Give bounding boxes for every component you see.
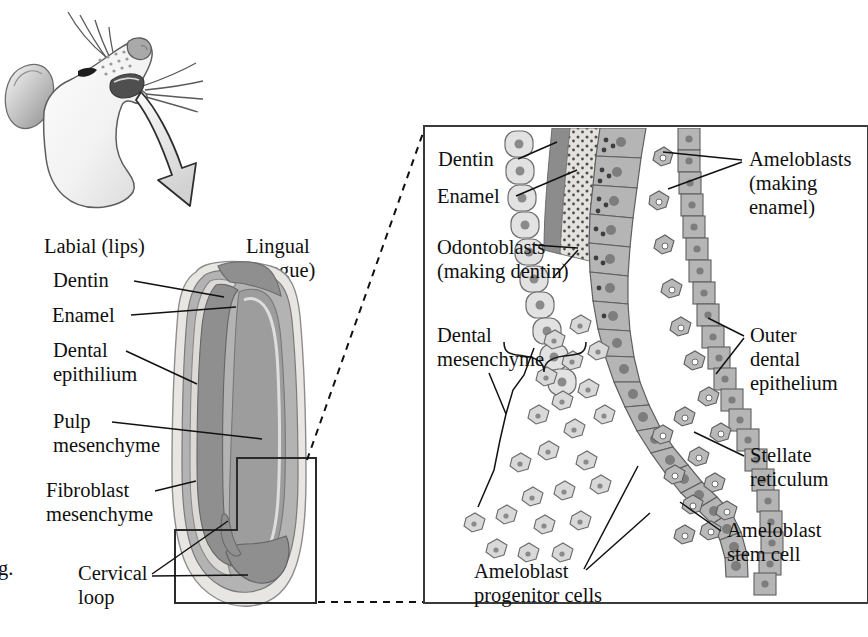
mouse-nose [127,38,151,60]
detail-label-ameloblasts-line1: Ameloblasts [749,148,852,170]
detail-label-ameloblast-stem-line1: Ameloblast [727,519,822,541]
left-label-cervical-line1: Cervical [78,562,148,584]
left-label-pulp-line2: mesenchyme [53,434,160,457]
left-label-pulp-line1: Pulp [53,410,91,433]
leader-left-cervical-b [152,575,248,576]
label-labial: Labial (lips) [44,235,145,258]
detail-label-stellate-line1: Stellate [750,444,811,466]
detail-label-odontoblasts-line1: Odontoblasts [437,236,545,258]
left-label-enamel: Enamel [52,304,115,326]
detail-label-odontoblasts-line2: (making dentin) [437,260,569,283]
detail-label-ameloblasts-line2: (making [749,172,817,195]
detail-label-outer-dental-line1: Outer [750,324,797,346]
incisor-cross-section-drawing [172,261,306,606]
detail-label-stellate-line2: reticulum [750,468,829,490]
layer-pulp-mesenchyme [229,289,285,574]
left-label-dental-epithilium-line1: Dental [53,339,108,361]
detail-label-progenitor-line2: progenitor cells [474,584,602,607]
detail-label-outer-dental-line2: dental [750,348,800,370]
detail-label-ameloblast-stem-line2: stem cell [727,543,801,565]
detail-label-ameloblasts-line3: enamel) [749,196,815,219]
detail-label-outer-dental-line3: epithelium [750,372,838,395]
left-label-dental-epithilium-line2: epithilium [53,363,137,386]
detail-label-progenitor-line1: Ameloblast [474,560,569,582]
caption-fragment: g. [0,557,13,580]
label-lingual-line1: Lingual [246,235,310,258]
left-label-cervical-line2: loop [78,586,114,609]
detail-label-dental-mesenchyme-line1: Dental [437,324,492,346]
detail-label-dentin: Dentin [438,148,494,170]
detail-label-dental-mesenchyme-line2: mesenchyme [437,348,544,371]
detail-label-enamel: Enamel [437,185,500,207]
left-label-fibroblast-line2: mesenchyme [46,503,153,526]
left-label-fibroblast-line1: Fibroblast [46,479,129,501]
left-label-dentin: Dentin [53,269,109,291]
tooth-development-figure: Labial (lips) Lingual (tongue) Dentin En… [0,0,868,637]
